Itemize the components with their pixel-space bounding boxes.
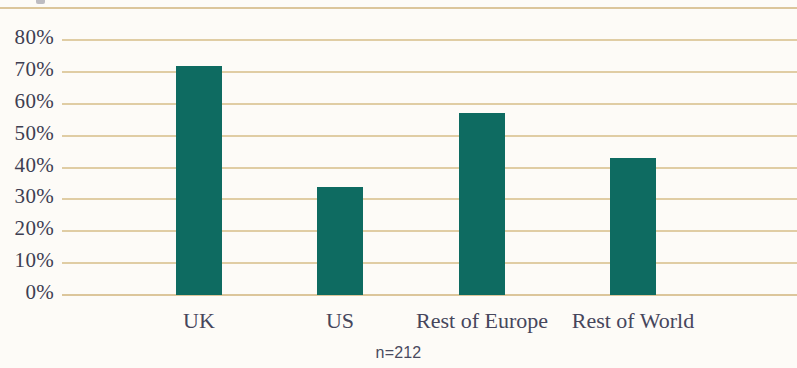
bar-chart-figure: 80%70%60%50%40%30%20%10%0% UKUSRest of E… <box>0 0 797 368</box>
gridline-70 <box>62 71 797 73</box>
plot-area: 80%70%60%50%40%30%20%10%0% <box>0 0 797 310</box>
x-category-label: UK <box>124 308 274 334</box>
bar <box>176 66 222 296</box>
y-tick-label: 20% <box>0 216 54 241</box>
gridline-50 <box>62 135 797 137</box>
sample-size-annotation: n=212 <box>0 344 797 362</box>
y-tick-label: 30% <box>0 184 54 209</box>
y-tick-label: 40% <box>0 153 54 178</box>
y-tick-label: 70% <box>0 57 54 82</box>
gridline-20 <box>62 230 797 232</box>
y-tick-label: 50% <box>0 121 54 146</box>
x-category-label: Rest of World <box>558 308 708 334</box>
x-category-label: Rest of Europe <box>407 308 557 334</box>
gridline-30 <box>62 198 797 200</box>
gridline-40 <box>62 167 797 169</box>
y-tick-label: 0% <box>0 280 54 305</box>
y-tick-label: 10% <box>0 248 54 273</box>
y-tick-label: 60% <box>0 89 54 114</box>
gridline-0 <box>62 294 797 296</box>
y-tick-label: 80% <box>0 25 54 50</box>
gridline-10 <box>62 262 797 264</box>
gridline-60 <box>62 103 797 105</box>
gridline-80 <box>62 39 797 41</box>
x-category-label: US <box>265 308 415 334</box>
bar <box>317 187 363 295</box>
bar <box>459 113 505 295</box>
bar <box>610 158 656 295</box>
